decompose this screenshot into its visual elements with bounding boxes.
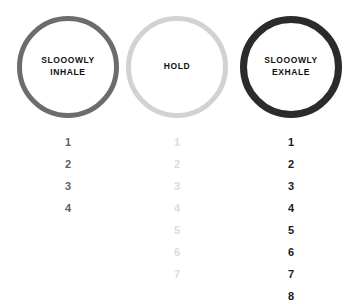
- count-item: 8: [232, 285, 350, 304]
- count-item: 4: [118, 197, 236, 219]
- count-item: 7: [232, 263, 350, 285]
- ring-exhale: SLOOOWLY EXHALE: [240, 16, 342, 118]
- count-item: 5: [118, 219, 236, 241]
- phase-column-exhale: SLOOOWLY EXHALE 1 2 3 4 5 6 7 8: [232, 0, 350, 296]
- phase-circle-exhale: SLOOOWLY EXHALE: [240, 16, 342, 118]
- count-item: 5: [232, 219, 350, 241]
- phase-label-exhale: SLOOOWLY EXHALE: [260, 55, 322, 78]
- count-list-inhale: 1 2 3 4: [9, 131, 127, 219]
- count-item: 3: [118, 175, 236, 197]
- count-item: 1: [9, 131, 127, 153]
- phase-circle-hold: HOLD: [126, 16, 228, 118]
- count-item: 2: [232, 153, 350, 175]
- phase-column-inhale: SLOOOWLY INHALE 1 2 3 4: [9, 0, 127, 296]
- phase-label-hold: HOLD: [160, 61, 194, 73]
- ring-hold: HOLD: [126, 16, 228, 118]
- count-item: 1: [232, 131, 350, 153]
- phase-label-inhale: SLOOOWLY INHALE: [37, 55, 99, 78]
- ring-inhale: SLOOOWLY INHALE: [17, 16, 119, 118]
- count-list-exhale: 1 2 3 4 5 6 7 8: [232, 131, 350, 304]
- count-item: 2: [118, 153, 236, 175]
- count-item: 1: [118, 131, 236, 153]
- count-item: 4: [9, 197, 127, 219]
- phase-column-hold: HOLD 1 2 3 4 5 6 7: [118, 0, 236, 296]
- count-item: 2: [9, 153, 127, 175]
- count-item: 3: [232, 175, 350, 197]
- count-item: 6: [118, 241, 236, 263]
- count-item: 3: [9, 175, 127, 197]
- count-list-hold: 1 2 3 4 5 6 7: [118, 131, 236, 285]
- phase-circle-inhale: SLOOOWLY INHALE: [17, 16, 119, 118]
- count-item: 6: [232, 241, 350, 263]
- count-item: 4: [232, 197, 350, 219]
- count-item: 7: [118, 263, 236, 285]
